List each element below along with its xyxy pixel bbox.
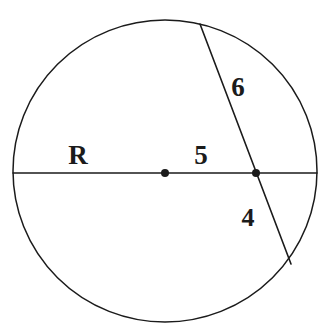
- intersection-point-dot: [252, 169, 260, 177]
- center-point-dot: [161, 169, 169, 177]
- diameter-segment-label: 5: [194, 142, 208, 169]
- chord-lower-label: 4: [242, 205, 255, 231]
- geometry-figure: R 5 6 4: [0, 0, 331, 326]
- chord-upper-label: 6: [231, 74, 245, 101]
- circle-chord-diagram: [0, 0, 331, 326]
- radius-label: R: [68, 142, 88, 169]
